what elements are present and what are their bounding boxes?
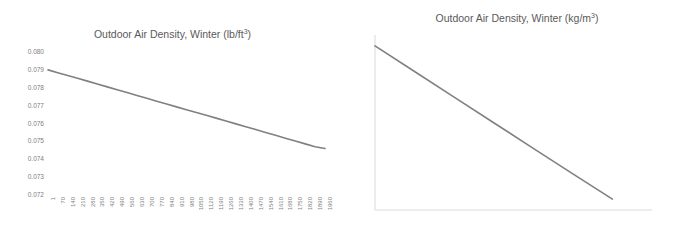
chart-title-metric-text: Outdoor Air Density, Winter (kg/m [435,12,591,24]
x-tick-label: 1470 [258,197,264,210]
x-tick-label: 1190 [218,197,224,210]
series-line-imperial [48,52,325,195]
y-tick-label: 0.073 [14,173,44,181]
x-tick-label: 70 [60,197,66,204]
x-tick-label: 210 [80,197,86,207]
x-tick-label: 560 [129,197,135,207]
x-tick-label: 420 [109,197,115,207]
x-tick-label: 630 [139,197,145,207]
y-tick-label: 0.075 [14,137,44,145]
x-tick-label: 1330 [238,197,244,210]
chart-title-imperial-tail: ) [248,28,252,40]
x-tick-label: 1750 [297,197,303,210]
x-tick-label: 840 [169,197,175,207]
x-tick-label: 140 [70,197,76,207]
x-tick-label: 910 [179,197,185,207]
axis-lines [375,35,652,210]
chart-imperial: Outdoor Air Density, Winter (lb/ft3) 0.0… [0,0,345,240]
x-tick-label: 1260 [228,197,234,210]
x-tick-label: 490 [119,197,125,207]
x-tick-label: 1050 [198,197,204,210]
data-series-line [48,70,325,149]
y-tick-label: 0.078 [14,84,44,92]
series-line-metric [375,35,652,210]
x-tick-label: 980 [189,197,195,207]
y-axis-tick-labels-imperial: 0.0800.0790.0780.0770.0760.0750.0740.073… [14,48,44,199]
x-tick-label: 1680 [287,197,293,210]
chart-metric: Outdoor Air Density, Winter (kg/m3) 1.27… [345,0,689,240]
chart-title-metric: Outdoor Air Density, Winter (kg/m3) [345,12,689,24]
x-tick-label: 770 [159,197,165,207]
x-tick-label: 1540 [268,197,274,210]
y-tick-label: 0.079 [14,66,44,74]
x-tick-label: 1960 [327,197,333,210]
figure-container: Outdoor Air Density, Winter (lb/ft3) 0.0… [0,0,689,240]
y-tick-label: 0.074 [14,155,44,163]
y-tick-label: 0.077 [14,102,44,110]
chart-title-metric-tail: ) [595,12,599,24]
y-tick-label: 0.080 [14,48,44,56]
x-tick-label: 1 [50,197,56,200]
y-tick-label: 0.076 [14,120,44,128]
x-tick-label: 1890 [317,197,323,210]
chart-title-imperial-text: Outdoor Air Density, Winter (lb/ft [94,28,244,40]
chart-title-imperial: Outdoor Air Density, Winter (lb/ft3) [0,28,345,40]
x-tick-label: 1120 [208,197,214,210]
plot-area-imperial [48,52,325,195]
data-series-line [375,46,612,199]
x-tick-label: 350 [99,197,105,207]
x-tick-label: 280 [90,197,96,207]
x-tick-label: 1610 [278,197,284,210]
x-axis-tick-labels-imperial: 1701402102803504204905606307007708409109… [48,197,325,237]
x-tick-label: 1820 [307,197,313,210]
x-tick-label: 1400 [248,197,254,210]
x-tick-label: 700 [149,197,155,207]
y-tick-label: 0.072 [14,191,44,199]
plot-area-metric [375,35,652,210]
